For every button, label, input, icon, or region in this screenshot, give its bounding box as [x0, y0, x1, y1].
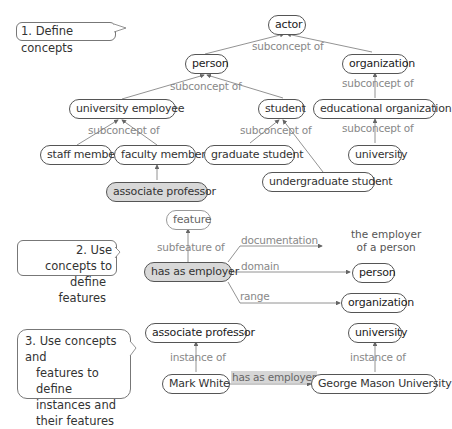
callout-pointer — [114, 22, 128, 36]
callout-define-instances: 3. Use concepts and features to define i… — [17, 329, 131, 399]
relation-label-subconcept-of: subconcept of — [342, 122, 414, 134]
callout-line: define features — [22, 274, 112, 306]
relation-label-instance-of: instance of — [350, 351, 406, 363]
concept-organization[interactable]: organization — [342, 54, 408, 74]
callout-text: 1. Define concepts — [21, 24, 73, 55]
relation-label-range: range — [240, 290, 270, 302]
callout-define-features: 2. Use concepts to define features — [17, 240, 117, 276]
concept-staff-member[interactable]: staff member — [40, 145, 112, 165]
relation-label-subconcept-of: subconcept of — [240, 124, 312, 136]
documentation-line: of a person — [351, 241, 421, 254]
relation-label-instance-of: instance of — [170, 351, 226, 363]
concept-person[interactable]: person — [185, 54, 228, 74]
concept-associate-professor[interactable]: associate professor — [106, 182, 208, 202]
callout-line: instances and — [25, 397, 123, 413]
relation-label-subconcept-of: subconcept of — [170, 80, 242, 92]
concept-university-employee[interactable]: university employee — [69, 99, 176, 119]
feature-has-as-employer[interactable]: has as employer — [144, 262, 232, 282]
feature-range-organization[interactable]: organization — [341, 293, 407, 313]
relation-label-domain: domain — [241, 260, 279, 272]
callout-line: their features — [25, 413, 123, 429]
feature-domain-person[interactable]: person — [352, 263, 395, 283]
relation-label-documentation: documentation — [241, 234, 318, 246]
concept-faculty-member[interactable]: faculty member — [114, 145, 196, 165]
instance-class-university[interactable]: university — [348, 323, 402, 343]
concept-university[interactable]: university — [348, 145, 402, 165]
callout-line: features to define — [25, 365, 123, 397]
relation-label-subconcept-of: subconcept of — [88, 124, 160, 136]
concept-undergraduate-student[interactable]: undergraduate student — [262, 172, 375, 192]
instance-george-mason-university[interactable]: George Mason University — [311, 374, 437, 394]
documentation-line: the employer — [351, 228, 421, 241]
feature-root[interactable]: feature — [166, 210, 211, 230]
instance-mark-white[interactable]: Mark White — [162, 374, 230, 394]
callout-line: 2. Use concepts to — [22, 242, 112, 274]
instance-class-associate-professor[interactable]: associate professor — [145, 323, 247, 343]
concept-educational-organization[interactable]: educational organization — [313, 99, 436, 119]
relation-label-subconcept-of: subconcept of — [252, 40, 324, 52]
callout-define-concepts: 1. Define concepts — [16, 22, 116, 41]
callout-pointer — [114, 246, 124, 266]
concept-graduate-student[interactable]: graduate student — [204, 145, 295, 165]
concept-actor[interactable]: actor — [268, 15, 306, 35]
relation-label-subfeature-of: subfeature of — [157, 241, 225, 253]
callout-pointer — [129, 340, 139, 362]
relation-label-subconcept-of: subconcept of — [342, 77, 414, 89]
callout-line: 3. Use concepts and — [25, 333, 123, 365]
documentation-text: the employer of a person — [351, 228, 421, 254]
concept-student[interactable]: student — [258, 99, 305, 119]
relation-label-has-as-employer: has as employer — [231, 371, 317, 383]
